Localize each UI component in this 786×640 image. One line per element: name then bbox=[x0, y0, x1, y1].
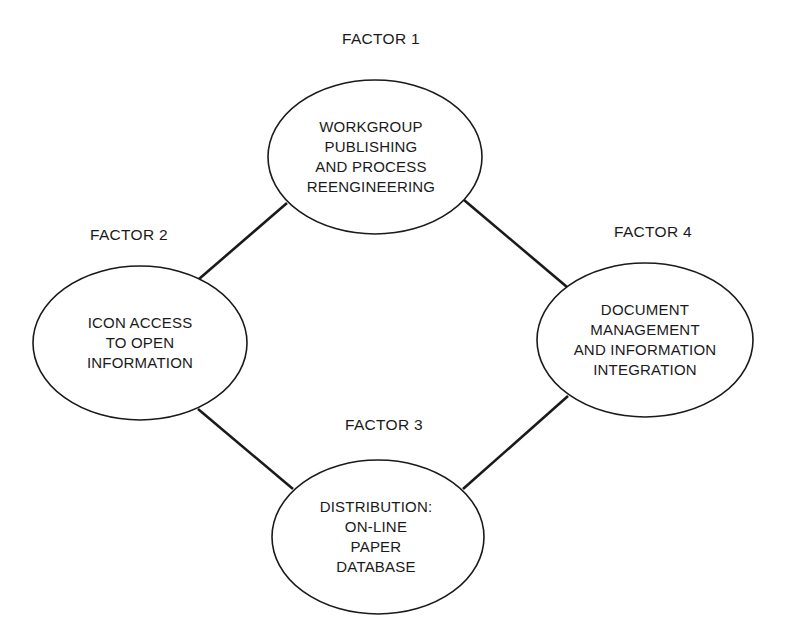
node-text-line: MANAGEMENT bbox=[574, 320, 717, 340]
connector-factor4-factor3 bbox=[463, 396, 568, 489]
node-factor4-text: DOCUMENT MANAGEMENT AND INFORMATION INTE… bbox=[574, 300, 717, 380]
node-text-line: DOCUMENT bbox=[574, 300, 717, 320]
node-factor1-text: WORKGROUP PUBLISHING AND PROCESS REENGIN… bbox=[307, 117, 435, 197]
node-text-line: PAPER bbox=[320, 537, 433, 557]
node-text-line: INTEGRATION bbox=[574, 360, 717, 380]
factor3-label: FACTOR 3 bbox=[345, 417, 423, 433]
node-text-line: DATABASE bbox=[320, 557, 433, 577]
node-text-line: INFORMATION bbox=[87, 353, 193, 373]
node-text-line: AND PROCESS bbox=[307, 157, 435, 177]
node-text-line: ICON ACCESS bbox=[87, 313, 193, 333]
node-text-line: TO OPEN bbox=[87, 333, 193, 353]
factor1-label: FACTOR 1 bbox=[342, 31, 420, 47]
node-text-line: REENGINEERING bbox=[307, 177, 435, 197]
node-text-line: AND INFORMATION bbox=[574, 340, 717, 360]
factor2-label: FACTOR 2 bbox=[90, 227, 168, 243]
node-text-line: WORKGROUP bbox=[307, 117, 435, 137]
connector-factor2-factor3 bbox=[198, 409, 293, 489]
connector-factor1-factor2 bbox=[199, 203, 287, 279]
node-factor2-text: ICON ACCESS TO OPEN INFORMATION bbox=[87, 313, 193, 373]
node-text-line: ON-LINE bbox=[320, 517, 433, 537]
node-factor3-text: DISTRIBUTION: ON-LINE PAPER DATABASE bbox=[320, 497, 433, 577]
connector-factor1-factor4 bbox=[464, 200, 567, 287]
factor4-label: FACTOR 4 bbox=[614, 224, 692, 240]
node-text-line: PUBLISHING bbox=[307, 137, 435, 157]
node-text-line: DISTRIBUTION: bbox=[320, 497, 433, 517]
